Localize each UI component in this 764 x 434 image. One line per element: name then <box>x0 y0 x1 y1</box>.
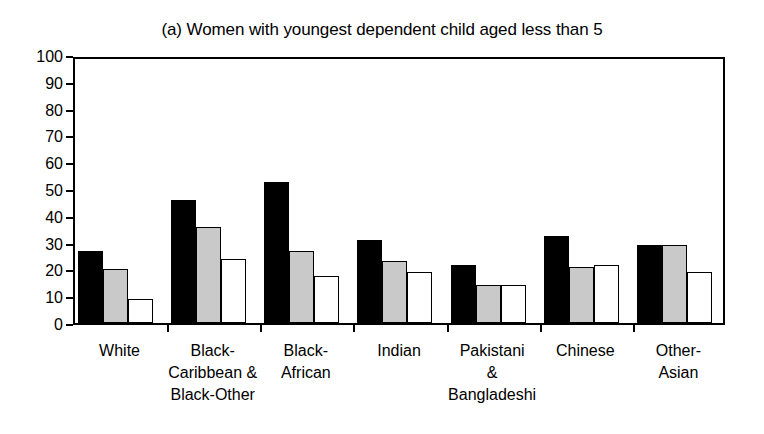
y-tick-mark <box>66 110 73 112</box>
bar-3-1 <box>264 182 289 323</box>
y-tick-label: 80 <box>45 103 63 119</box>
bar-7-2 <box>662 245 687 323</box>
bar-group <box>541 59 634 323</box>
y-tick-mark <box>66 217 73 219</box>
bar-6-3 <box>594 265 619 323</box>
x-axis-label: Other- Asian <box>621 340 736 384</box>
x-axis-labels: WhiteBlack- Caribbean & Black-OtherBlack… <box>73 340 725 434</box>
bar-group-bars <box>75 59 171 323</box>
plot-area <box>73 57 725 325</box>
y-tick-label: 20 <box>45 263 63 279</box>
bar-4-3 <box>407 272 432 323</box>
bar-group <box>634 59 727 323</box>
bar-3-3 <box>314 276 339 323</box>
chart-figure: (a) Women with youngest dependent child … <box>0 0 764 434</box>
bar-group <box>354 59 447 323</box>
bar-2-1 <box>171 200 196 323</box>
bar-4-1 <box>357 240 382 323</box>
y-tick-label: 90 <box>45 76 63 92</box>
y-tick-label: 0 <box>54 317 63 333</box>
bar-7-1 <box>637 245 662 323</box>
y-tick-label: 40 <box>45 210 63 226</box>
bar-5-2 <box>476 285 501 323</box>
y-tick-mark <box>66 56 73 58</box>
bar-6-1 <box>544 236 569 323</box>
y-tick-mark <box>66 190 73 192</box>
x-axis-separator-tick <box>353 323 355 332</box>
bar-group-bars <box>354 59 450 323</box>
bar-1-1 <box>78 251 103 323</box>
bar-group <box>448 59 541 323</box>
bar-group-bars <box>634 59 730 323</box>
bar-group-bars <box>261 59 357 323</box>
chart-title: (a) Women with youngest dependent child … <box>0 20 764 40</box>
bar-7-3 <box>687 272 712 323</box>
bars-layer <box>75 59 723 323</box>
x-axis-separator-tick <box>260 323 262 332</box>
x-axis-separator-tick <box>540 323 542 332</box>
y-axis: 0102030405060708090100 <box>0 57 73 325</box>
bar-group <box>168 59 261 323</box>
bar-5-1 <box>451 265 476 323</box>
y-tick-mark <box>66 136 73 138</box>
y-tick-mark <box>66 270 73 272</box>
bar-2-3 <box>221 259 246 323</box>
bar-1-2 <box>103 269 128 323</box>
y-tick-mark <box>66 244 73 246</box>
y-tick-mark <box>66 297 73 299</box>
bar-group <box>75 59 168 323</box>
bar-2-2 <box>196 227 221 323</box>
bar-6-2 <box>569 267 594 323</box>
y-tick-label: 10 <box>45 290 63 306</box>
y-tick-mark <box>66 324 73 326</box>
y-tick-label: 70 <box>45 129 63 145</box>
y-tick-mark <box>66 163 73 165</box>
x-axis-separator-tick <box>633 323 635 332</box>
bar-5-3 <box>501 285 526 323</box>
bar-group <box>261 59 354 323</box>
x-axis-separator-tick <box>167 323 169 332</box>
x-axis-separator-tick <box>447 323 449 332</box>
y-tick-label: 30 <box>45 237 63 253</box>
y-tick-label: 60 <box>45 156 63 172</box>
bar-4-2 <box>382 261 407 323</box>
bar-1-3 <box>128 299 153 323</box>
y-tick-label: 50 <box>45 183 63 199</box>
bar-group-bars <box>448 59 544 323</box>
bar-group-bars <box>541 59 637 323</box>
bar-3-2 <box>289 251 314 323</box>
bar-group-bars <box>168 59 264 323</box>
y-tick-label: 100 <box>36 49 63 65</box>
y-tick-mark <box>66 83 73 85</box>
